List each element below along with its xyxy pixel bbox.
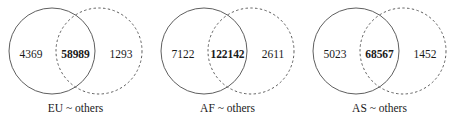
venn-panel-as: 5023 68567 1452 AS ~ others [304, 0, 455, 121]
venn-values-af: 7122 122142 2611 [152, 45, 303, 63]
venn-caption-as: AS ~ others [304, 100, 455, 116]
venn-intersection-value: 122142 [200, 45, 255, 63]
venn-panel-af: 7122 122142 2611 AF ~ others [152, 0, 303, 121]
venn-right-only-value: 1293 [98, 45, 144, 63]
venn-right-only-value: 2611 [250, 45, 296, 63]
venn-intersection-value: 68567 [352, 45, 407, 63]
venn-values-as: 5023 68567 1452 [304, 45, 455, 63]
venn-intersection-value: 58989 [48, 45, 103, 63]
venn-caption-eu: EU ~ others [0, 100, 151, 116]
venn-right-only-value: 1452 [402, 45, 448, 63]
venn-values-eu: 4369 58989 1293 [0, 45, 151, 63]
venn-panel-eu: 4369 58989 1293 EU ~ others [0, 0, 151, 121]
venn-diagram-figure: 4369 58989 1293 EU ~ others 7122 122142 … [0, 0, 455, 121]
venn-caption-af: AF ~ others [152, 100, 303, 116]
